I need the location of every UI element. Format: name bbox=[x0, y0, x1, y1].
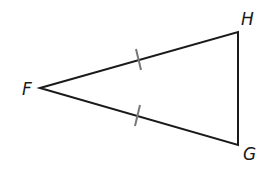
vertex-label-g: G bbox=[243, 144, 256, 164]
vertex-label-h: H bbox=[241, 9, 254, 29]
triangle-fhg bbox=[40, 32, 238, 145]
vertex-label-f: F bbox=[22, 79, 32, 99]
triangle-diagram: F H G bbox=[0, 0, 270, 178]
